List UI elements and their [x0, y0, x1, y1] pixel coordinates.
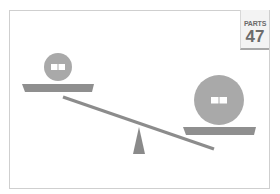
right-weight [194, 75, 244, 125]
right-tray [183, 127, 256, 135]
balance-scale-illustration [0, 0, 280, 194]
left-weight [44, 53, 72, 81]
fulcrum-triangle [133, 127, 145, 154]
large-circle-weight [194, 75, 244, 125]
small-circle-weight [44, 53, 72, 81]
left-tray [22, 84, 94, 92]
